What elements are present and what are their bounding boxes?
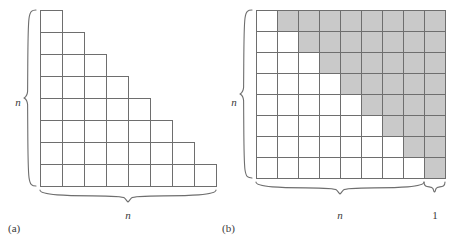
panel-b-cell-white — [298, 94, 319, 115]
panel-a-cell — [84, 98, 106, 120]
panel-a-cells — [40, 10, 216, 186]
panel-a-cell — [172, 142, 194, 164]
panel-b-cell-white — [277, 136, 298, 157]
panel-b-cell-shaded — [340, 73, 361, 94]
panel-a-cell — [62, 76, 84, 98]
panel-a-cell — [84, 76, 106, 98]
panel-b-cell-shaded — [403, 31, 424, 52]
panel-b-cell-shaded — [361, 73, 382, 94]
panel-a-cell — [106, 120, 128, 142]
panel-b-cell-shaded — [382, 115, 403, 136]
panel-b-cell-shaded — [424, 115, 445, 136]
panel-b-cell-white — [382, 136, 403, 157]
panel-a-cell — [62, 98, 84, 120]
panel-b-cell-white — [361, 136, 382, 157]
panel-a-cell — [40, 164, 62, 186]
panel-b-cell-shaded — [382, 94, 403, 115]
panel-b-cell-shaded — [319, 52, 340, 73]
panel-a-cell — [106, 98, 128, 120]
panel-a-cell — [128, 98, 150, 120]
panel-a-cell — [62, 54, 84, 76]
panel-b-cell-white — [298, 157, 319, 178]
panel-b: n n 1 (b) — [222, 10, 445, 235]
panel-b-cell-white — [319, 136, 340, 157]
panel-b-cell-white — [277, 157, 298, 178]
panel-b-cell-white — [361, 115, 382, 136]
panel-a-cell — [40, 32, 62, 54]
panel-a-left-brace-label: n — [15, 96, 21, 108]
panel-b-cell-shaded — [361, 10, 382, 31]
panel-b-cell-white — [298, 52, 319, 73]
panel-b-cell-shaded — [403, 94, 424, 115]
panel-b-cell-shaded — [382, 52, 403, 73]
panel-b-cell-white — [256, 10, 277, 31]
panel-b-bottom-brace — [256, 182, 424, 194]
panel-b-cell-white — [256, 52, 277, 73]
panel-a-cell — [40, 76, 62, 98]
panel-a-cell — [62, 164, 84, 186]
panel-b-cell-shaded — [424, 73, 445, 94]
panel-a-bottom-brace-label: n — [125, 209, 131, 221]
panel-b-bottom-brace-label: n — [337, 209, 343, 221]
panel-b-cell-shaded — [424, 136, 445, 157]
panel-b-cell-shaded — [424, 31, 445, 52]
panel-b-cell-white — [298, 136, 319, 157]
panel-a-cell — [150, 164, 172, 186]
figure-svg: n n (a) n n 1 (b) — [0, 0, 458, 246]
panel-a-cell — [40, 10, 62, 32]
panel-b-cell-white — [256, 115, 277, 136]
panel-b-cell-shaded — [340, 31, 361, 52]
panel-b-left-brace — [240, 10, 252, 178]
panel-b-cell-white — [277, 31, 298, 52]
panel-b-cell-white — [256, 73, 277, 94]
panel-b-cell-white — [340, 136, 361, 157]
panel-b-cell-shaded — [340, 52, 361, 73]
panel-b-cell-shaded — [424, 157, 445, 178]
panel-b-bottom-extra-brace — [424, 182, 445, 192]
panel-a-left-brace — [24, 10, 36, 186]
panel-b-cell-white — [277, 73, 298, 94]
panel-b-cell-shaded — [361, 94, 382, 115]
panel-a-cell — [150, 142, 172, 164]
panel-a-cell — [62, 142, 84, 164]
panel-b-cell-white — [340, 157, 361, 178]
panel-a-cell — [106, 76, 128, 98]
panel-a-cell — [40, 98, 62, 120]
panel-b-cell-white — [277, 115, 298, 136]
panel-a-cell — [84, 54, 106, 76]
panel-a-cell — [40, 142, 62, 164]
panel-b-cell-shaded — [382, 73, 403, 94]
panel-b-cell-shaded — [298, 31, 319, 52]
panel-b-cell-shaded — [403, 136, 424, 157]
panel-b-cell-shaded — [403, 73, 424, 94]
panel-b-cell-white — [361, 157, 382, 178]
panel-b-cell-shaded — [277, 10, 298, 31]
panel-a-cell — [40, 120, 62, 142]
panel-b-cell-shaded — [403, 10, 424, 31]
panel-b-cell-white — [319, 115, 340, 136]
figure-root: n n (a) n n 1 (b) — [0, 0, 458, 246]
panel-b-left-brace-label: n — [231, 96, 237, 108]
panel-b-cell-white — [277, 52, 298, 73]
panel-a-cell — [84, 142, 106, 164]
panel-a-cell — [172, 164, 194, 186]
panel-a-cell — [106, 142, 128, 164]
panel-b-cell-shaded — [340, 10, 361, 31]
panel-b-cell-shaded — [382, 31, 403, 52]
panel-a-cell — [194, 164, 216, 186]
panel-b-cell-shaded — [382, 10, 403, 31]
panel-a: n n (a) — [8, 10, 216, 235]
panel-b-cell-white — [256, 157, 277, 178]
panel-b-caption: (b) — [222, 222, 235, 235]
panel-a-bottom-brace — [40, 190, 216, 202]
panel-b-cell-shaded — [319, 31, 340, 52]
panel-a-cell — [62, 120, 84, 142]
panel-b-cell-shaded — [361, 52, 382, 73]
panel-b-cell-shaded — [424, 52, 445, 73]
panel-b-bottom-extra-brace-label: 1 — [432, 209, 438, 221]
panel-b-cell-shaded — [403, 115, 424, 136]
panel-b-cell-shaded — [298, 10, 319, 31]
panel-b-bottom-brace-path — [256, 182, 424, 194]
panel-a-caption: (a) — [8, 222, 21, 235]
panel-b-cell-white — [298, 115, 319, 136]
